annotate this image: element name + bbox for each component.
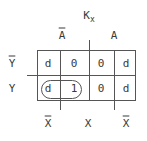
divider-col-2 [89,40,90,101]
column-header-a: A [111,30,118,41]
column-header-x-bar-left: X [45,118,52,129]
title-subscript: x [90,15,95,24]
cell-r1-c3: d [123,83,130,94]
cell-r0-c2: 0 [98,58,105,69]
column-header-x-bar-right: X [123,118,130,129]
divider-row [27,75,136,76]
cell-r1-c2: 0 [98,83,105,94]
row-header-y-bar: Y [9,58,16,69]
title-main: K [83,9,90,22]
map-title: Kx [83,10,94,22]
divider-col-3 [114,50,115,110]
row-header-y: Y [9,83,16,94]
cell-r0-c3: d [123,58,130,69]
grouping-loop [41,80,82,99]
column-header-a-bar: A [59,30,66,41]
column-header-x: X [85,118,92,129]
cell-r0-c0: d [45,58,52,69]
cell-r0-c1: 0 [71,58,78,69]
